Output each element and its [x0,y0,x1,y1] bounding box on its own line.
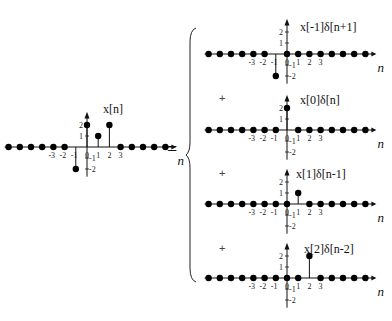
stem-point [295,275,301,281]
x-tick-label: 3 [319,208,323,217]
x-tick-label: 2 [307,134,311,143]
stem-plot-0: 21-1-2-3-2-10123x[n]n [5,102,184,177]
x-tick-label: 3 [319,58,323,67]
stem-point [273,201,279,207]
x-axis-label: n [377,210,384,225]
y-tick-label: -1 [289,285,296,294]
stem-point [329,275,335,281]
x-tick-label: 1 [296,282,300,291]
x-tick-label: -1 [271,282,278,291]
y-axis-arrow-icon [285,169,290,176]
x-tick-label: 3 [319,282,323,291]
stem-plot-3: 21-1-2-3-2-10123x[1]δ[n-1]n [205,167,384,234]
x-tick-label: -3 [248,282,255,291]
x-tick-label: 2 [307,282,311,291]
y-tick-label: 2 [279,104,283,113]
x-tick-label: 2 [107,151,111,160]
stem-point [217,51,223,57]
y-tick-label: 1 [279,263,283,272]
x-axis-arrow-icon [371,202,376,207]
y-tick-label: -1 [89,154,96,163]
stem-plot-2: 21-1-2-3-2-10123x[0]δ[n]n [205,93,384,160]
stem-point [61,144,67,150]
y-tick-label: 1 [279,115,283,124]
x-tick-label: 1 [96,151,100,160]
stem-point [295,190,301,196]
stem-point [340,51,346,57]
y-axis-arrow-icon [285,243,290,250]
stem-point [317,51,323,57]
stem-point [340,275,346,281]
x-tick-label: 0 [285,134,289,143]
stem-point [261,201,267,207]
curly-brace [186,28,196,282]
stem-point [329,51,335,57]
y-tick-label: 1 [79,132,83,141]
y-tick-label: -2 [289,296,296,305]
stem-point [239,275,245,281]
stem-point [284,201,290,207]
stem-point [106,122,112,128]
y-tick-label: 2 [279,28,283,37]
stem-point [340,201,346,207]
stem-point [39,144,45,150]
stem-point [129,144,135,150]
x-axis-arrow-icon [371,52,376,57]
stem-point [239,51,245,57]
stem-point [261,127,267,133]
stem-point [151,144,157,150]
plot-title: x[1]δ[n-1] [296,167,346,181]
stem-point [362,51,368,57]
x-tick-label: 1 [296,58,300,67]
stem-point [261,51,267,57]
stem-point [306,127,312,133]
x-tick-label: 2 [307,208,311,217]
x-tick-label: -2 [260,134,267,143]
x-tick-label: 0 [285,208,289,217]
x-axis-label: n [177,153,184,168]
y-tick-label: 1 [279,189,283,198]
stem-point [284,275,290,281]
stem-point [284,105,290,111]
stem-point [228,127,234,133]
stem-point [239,201,245,207]
stem-point [273,275,279,281]
x-tick-label: 3 [319,134,323,143]
stem-point [228,275,234,281]
plot-title: x[-1]δ[n+1] [300,20,356,34]
stem-point [95,133,101,139]
y-tick-label: -1 [289,137,296,146]
x-tick-label: -2 [260,208,267,217]
y-axis-arrow-icon [285,95,290,102]
stem-point [17,144,23,150]
stem-point [317,201,323,207]
stem-point [205,275,211,281]
x-axis-label: n [377,60,384,75]
stem-point [205,51,211,57]
stem-point [162,144,168,150]
y-tick-label: 2 [79,121,83,130]
stem-point [295,51,301,57]
stem-point [73,166,79,172]
y-tick-label: -1 [289,61,296,70]
stem-point [306,201,312,207]
x-tick-label: -1 [271,58,278,67]
stem-point [250,51,256,57]
x-axis-label: n [377,284,384,299]
x-tick-label: -3 [248,58,255,67]
y-tick-label: -2 [289,222,296,231]
stem-point [329,201,335,207]
stem-point [317,275,323,281]
y-tick-label: -2 [89,165,96,174]
stem-point [295,127,301,133]
y-tick-label: 2 [279,178,283,187]
x-tick-label: -2 [260,282,267,291]
stem-point [28,144,34,150]
stem-point [205,201,211,207]
stem-point [250,275,256,281]
stem-point [250,127,256,133]
x-tick-label: 0 [85,151,89,160]
y-axis-arrow-icon [285,19,290,26]
stem-point [217,127,223,133]
y-tick-label: 2 [279,252,283,261]
